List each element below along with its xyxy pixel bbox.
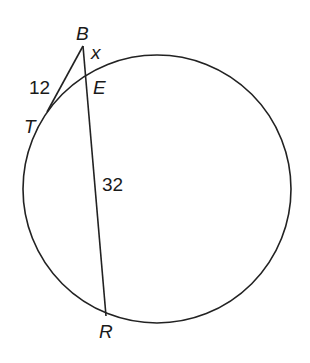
label-point-r: R	[99, 321, 113, 342]
label-point-e: E	[93, 77, 106, 98]
circle	[23, 55, 291, 323]
label-segment-x: x	[90, 42, 102, 63]
label-segment-32: 32	[102, 174, 123, 195]
diagram-canvas: B x E 12 T 32 R	[0, 0, 310, 363]
label-segment-12: 12	[29, 77, 50, 98]
tangent-segment-bt	[47, 46, 83, 112]
label-point-t: T	[24, 116, 37, 137]
label-point-b: B	[76, 23, 89, 44]
